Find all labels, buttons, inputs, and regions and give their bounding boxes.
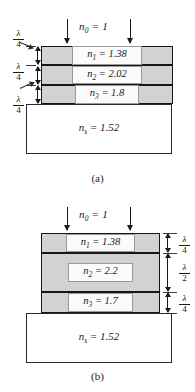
film-layer-1-b: n1 = 1.38 — [41, 233, 160, 253]
film-layer-1-label-a: n1 = 1.38 — [72, 46, 142, 65]
leader-line-3-a — [20, 82, 34, 89]
panel-caption-a: (a) — [0, 172, 195, 184]
film-layer-2-label-b: n2 = 2.2 — [68, 263, 132, 282]
incident-medium-value-b: = 1 — [92, 208, 108, 220]
substrate-label-b: ns = 1.52 — [79, 330, 120, 345]
substrate-b: ns = 1.52 — [26, 313, 172, 363]
thickness-dimension-2-b — [167, 254, 168, 291]
thickness-tick-mid1-a — [26, 65, 36, 66]
substrate-label-a: ns = 1.52 — [79, 121, 120, 136]
incident-medium-label-a: n0 = 1 — [79, 20, 108, 35]
thickness-label-2-a: λ 4 — [12, 62, 25, 82]
film-layer-2-a: n2 = 2.02 — [41, 65, 173, 84]
film-layer-2-b: n2 = 2.2 — [41, 253, 160, 292]
panel-caption-b: (b) — [0, 370, 195, 382]
incident-ray-arrow-left-b — [67, 207, 68, 230]
denominator-3-a: 4 — [12, 106, 25, 116]
thickness-tick-mid1-b — [163, 253, 177, 254]
thickness-label-1-a: λ 4 — [12, 29, 25, 49]
film-layer-1-a: n1 = 1.38 — [41, 46, 173, 65]
thickness-tick-mid2-b — [163, 292, 177, 293]
film-stack-b: n1 = 1.38 n2 = 2.2 n3 = 1.7 — [41, 233, 160, 313]
incident-medium-label-b: n0 = 1 — [79, 208, 108, 223]
film-layer-3-label-b: n3 = 1.7 — [68, 293, 132, 312]
denominator-2-b: 2 — [178, 274, 191, 284]
thickness-dimension-3-a — [37, 86, 38, 103]
thickness-dimension-3-b — [167, 293, 168, 312]
thickness-tick-top-b — [163, 233, 177, 234]
thickness-label-3-b: λ 4 — [178, 294, 191, 314]
film-layer-3-b: n3 = 1.7 — [41, 292, 160, 313]
lambda-symbol-3-a: λ — [12, 95, 25, 105]
incident-medium-subscript-b: 0 — [85, 214, 89, 223]
denominator-1-b: 4 — [178, 246, 191, 256]
panel-a: n0 = 1 n1 = 1.38 n2 = 2.02 n3 = 1.8 λ 4 … — [0, 0, 195, 196]
thickness-label-3-a: λ 4 — [12, 95, 25, 115]
denominator-2-a: 4 — [12, 73, 25, 83]
panel-b: n0 = 1 n1 = 1.38 n2 = 2.2 n3 = 1.7 λ 4 λ… — [0, 196, 195, 392]
thickness-dimension-1-a — [37, 47, 38, 64]
incident-ray-arrow-right-a — [130, 19, 131, 43]
thickness-dimension-2-a — [37, 67, 38, 84]
film-layer-3-a: n3 = 1.8 — [41, 85, 173, 104]
lambda-symbol-3-b: λ — [178, 294, 191, 304]
lambda-symbol-2-a: λ — [12, 62, 25, 72]
thickness-label-1-b: λ 4 — [178, 235, 191, 255]
denominator-3-b: 4 — [178, 305, 191, 315]
lambda-symbol-1-a: λ — [12, 29, 25, 39]
lambda-symbol-1-b: λ — [178, 235, 191, 245]
lambda-symbol-2-b: λ — [178, 263, 191, 273]
film-stack-a: n1 = 1.38 n2 = 2.02 n3 = 1.8 — [41, 46, 173, 104]
incident-medium-value-a: = 1 — [92, 20, 108, 32]
incident-ray-arrow-left-a — [67, 19, 68, 43]
film-layer-3-label-a: n3 = 1.8 — [75, 85, 139, 104]
film-layer-1-label-b: n1 = 1.38 — [66, 234, 136, 253]
incident-medium-subscript-a: 0 — [85, 26, 89, 35]
film-layer-2-label-a: n2 = 2.02 — [72, 66, 142, 85]
substrate-a: ns = 1.52 — [26, 104, 172, 154]
thickness-dimension-1-b — [167, 234, 168, 252]
thickness-label-2-b: λ 2 — [178, 263, 191, 283]
incident-ray-arrow-right-b — [130, 207, 131, 230]
